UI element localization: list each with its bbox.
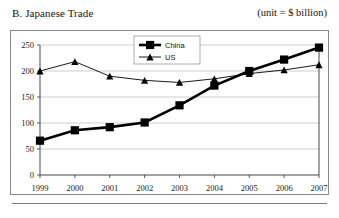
x-tick-label: 2001 bbox=[101, 183, 118, 193]
data-point-china bbox=[141, 118, 149, 126]
y-tick-label: 150 bbox=[21, 92, 34, 102]
y-tick-label: 0 bbox=[30, 170, 34, 180]
x-tick-label: 2002 bbox=[136, 183, 153, 193]
chart-legend: ChinaUS bbox=[134, 36, 200, 64]
data-point-us bbox=[71, 58, 78, 65]
page-title: B. Japanese Trade bbox=[12, 7, 93, 19]
data-point-china bbox=[36, 137, 44, 145]
x-tick-label: 2007 bbox=[311, 183, 328, 193]
x-tick-label: 2004 bbox=[206, 183, 224, 193]
x-tick-label: 2006 bbox=[276, 183, 293, 193]
y-tick-label: 100 bbox=[21, 118, 34, 128]
data-point-china bbox=[315, 44, 323, 52]
x-tick-label: 2005 bbox=[241, 183, 258, 193]
line-chart: 050100150200250 199920002001200220032004… bbox=[10, 30, 329, 195]
legend-marker-china bbox=[146, 41, 154, 49]
x-tick-label: 2000 bbox=[66, 183, 83, 193]
data-point-china bbox=[280, 55, 288, 63]
unit-note: (unit = $ billion) bbox=[257, 7, 327, 18]
figure-container: B. Japanese Trade (unit = $ billion) 050… bbox=[0, 0, 339, 218]
data-point-china bbox=[210, 81, 218, 89]
x-axis-ticks-group: 199920002001200220032004200520062007 bbox=[32, 175, 328, 193]
y-tick-label: 200 bbox=[21, 66, 34, 76]
data-point-china bbox=[71, 126, 79, 134]
horizontal-divider bbox=[12, 203, 327, 204]
legend-label-us: US bbox=[165, 53, 175, 62]
data-point-china bbox=[175, 101, 183, 109]
x-tick-label: 2003 bbox=[171, 183, 188, 193]
legend-label-china: China bbox=[165, 41, 185, 50]
x-tick-label: 1999 bbox=[32, 183, 49, 193]
data-point-china bbox=[106, 123, 114, 131]
y-tick-label: 50 bbox=[26, 144, 35, 154]
y-axis-ticks-group: 050100150200250 bbox=[21, 40, 40, 180]
y-tick-label: 250 bbox=[21, 40, 34, 50]
